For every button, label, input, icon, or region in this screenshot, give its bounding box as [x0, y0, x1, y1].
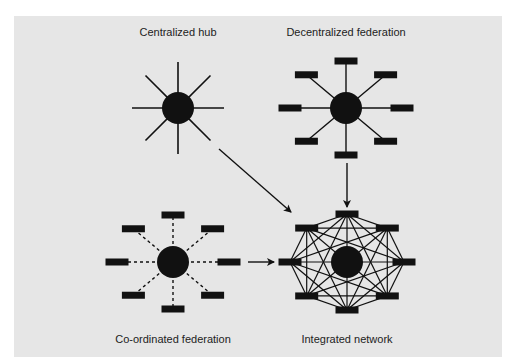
- member-node: [279, 259, 302, 266]
- member-node: [122, 225, 145, 232]
- member-node: [201, 292, 224, 299]
- hub-node: [157, 246, 189, 278]
- member-node: [374, 71, 397, 78]
- member-node: [374, 138, 397, 145]
- member-node: [335, 152, 358, 159]
- member-node: [295, 138, 318, 145]
- label-integrated-network: Integrated network: [301, 333, 393, 345]
- member-node: [376, 292, 399, 299]
- member-node: [162, 212, 185, 219]
- network-models-diagram: Centralized hub Decentralized federation…: [0, 0, 516, 363]
- hub-node: [331, 246, 363, 278]
- label-decentralized-federation: Decentralized federation: [286, 26, 405, 38]
- diagram-panel: [14, 16, 502, 357]
- hub-node: [330, 92, 362, 124]
- member-node: [295, 292, 318, 299]
- member-node: [295, 225, 318, 232]
- member-node: [218, 259, 241, 266]
- member-node: [106, 259, 129, 266]
- label-co-ordinated-federation: Co-ordinated federation: [115, 333, 231, 345]
- hub-node: [162, 92, 194, 124]
- member-node: [279, 105, 302, 112]
- model-integrated-network: [279, 211, 416, 314]
- model-centralized-hub: [132, 62, 224, 154]
- label-centralized-hub: Centralized hub: [139, 26, 216, 38]
- member-node: [393, 259, 416, 266]
- member-node: [122, 292, 145, 299]
- member-node: [376, 225, 399, 232]
- member-node: [295, 71, 318, 78]
- member-node: [335, 58, 358, 65]
- member-node: [336, 211, 359, 218]
- member-node: [201, 225, 224, 232]
- member-node: [162, 306, 185, 313]
- model-decentralized-federation: [279, 58, 414, 159]
- member-node: [336, 307, 359, 314]
- member-node: [391, 105, 414, 112]
